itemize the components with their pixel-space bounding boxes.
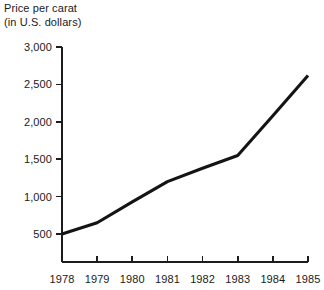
y-axis-tick-label: 500 [33,228,52,240]
y-axis-tick-label: 3,000 [24,41,52,53]
x-axis-tick-label: 1985 [296,273,321,285]
x-axis-tick-label: 1978 [50,273,75,285]
x-axis-tick-labels: 19781979198019811982198319841985 [50,273,321,285]
x-axis-tick-label: 1982 [190,273,215,285]
y-axis-tick-label: 1,500 [24,153,52,165]
x-axis-tick-label: 1983 [225,273,250,285]
x-axis-tick-label: 1979 [85,273,110,285]
x-axis-tick-label: 1981 [155,273,180,285]
y-axis-tick-label: 1,000 [24,191,52,203]
data-series-line [62,75,308,234]
x-axis-tick-label: 1984 [260,273,285,285]
y-axis-tick-label: 2,000 [24,116,52,128]
line-chart: 5001,0001,5002,0002,5003,000 19781979198… [0,0,324,290]
y-axis-tick-labels: 5001,0001,5002,0002,5003,000 [24,41,52,240]
y-axis-tick-label: 2,500 [24,78,52,90]
chart-page: Price per carat(in U.S. dollars) 5001,00… [0,0,324,290]
x-axis-tick-label: 1980 [120,273,145,285]
